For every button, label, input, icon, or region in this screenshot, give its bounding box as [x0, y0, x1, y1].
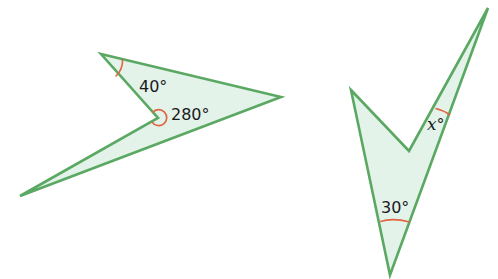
- right-shape: x° 30°: [351, 8, 488, 275]
- left-shape: 40° 280°: [20, 54, 281, 196]
- angle-label-40: 40°: [139, 77, 167, 96]
- angle-label-x: x°: [427, 114, 445, 134]
- angle-label-280: 280°: [171, 105, 210, 124]
- right-quadrilateral: [351, 8, 488, 275]
- geometry-figure: 40° 280° x° 30°: [0, 0, 498, 279]
- angle-label-30: 30°: [381, 198, 409, 217]
- left-quadrilateral: [20, 54, 281, 196]
- diagram-canvas: 40° 280° x° 30°: [0, 0, 498, 279]
